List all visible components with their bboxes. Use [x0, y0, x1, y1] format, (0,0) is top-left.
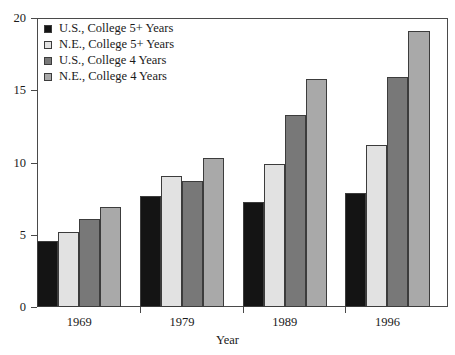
bar [243, 202, 264, 307]
x-tick-label: 1989 [255, 315, 315, 329]
legend-item: U.S., College 4 Years [44, 54, 174, 67]
y-tick-mark [31, 235, 37, 236]
bar [408, 31, 429, 307]
y-tick-mark [31, 90, 37, 91]
legend-swatch-icon [44, 73, 52, 81]
bar [79, 219, 100, 307]
legend-item-label: N.E., College 5+ Years [59, 38, 174, 51]
y-tick-mark [31, 18, 37, 19]
bar [366, 145, 387, 307]
legend: U.S., College 5+ YearsN.E., College 5+ Y… [44, 22, 174, 83]
x-tick-label: 1969 [49, 315, 109, 329]
x-tick-mark [140, 307, 141, 313]
legend-item-label: U.S., College 5+ Years [59, 22, 173, 35]
legend-swatch-icon [44, 57, 52, 65]
legend-swatch-icon [44, 41, 52, 49]
x-tick-mark [243, 307, 244, 313]
legend-item-label: U.S., College 4 Years [59, 54, 166, 67]
bar [161, 176, 182, 307]
legend-swatch-icon [44, 25, 52, 33]
bar [140, 196, 161, 307]
x-axis-title: Year [0, 333, 455, 348]
legend-item: N.E., College 4 Years [44, 70, 174, 83]
bar [58, 232, 79, 307]
x-tick-label: 1979 [152, 315, 212, 329]
x-tick-mark [345, 307, 346, 313]
bar [37, 241, 58, 307]
legend-item-label: N.E., College 4 Years [59, 70, 167, 83]
bar [100, 207, 121, 307]
bar [264, 164, 285, 307]
legend-item: N.E., College 5+ Years [44, 38, 174, 51]
bar [182, 181, 203, 307]
bar [306, 79, 327, 307]
bar [345, 193, 366, 307]
bar [387, 77, 408, 307]
bar [203, 158, 224, 307]
bar-chart: 05101520 U.S., College 5+ YearsN.E., Col… [0, 0, 455, 355]
y-tick-mark [31, 163, 37, 164]
bar [285, 115, 306, 307]
legend-item: U.S., College 5+ Years [44, 22, 174, 35]
y-tick-mark [31, 307, 37, 308]
x-tick-label: 1996 [357, 315, 417, 329]
